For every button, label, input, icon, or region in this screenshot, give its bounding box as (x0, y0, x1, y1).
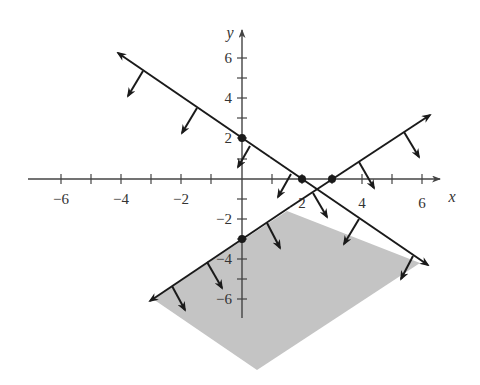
y-tick-label: 6 (225, 50, 233, 66)
y-tick-label: −4 (216, 251, 232, 267)
x-tick-label: 4 (358, 195, 366, 211)
intercept-point-3-0 (328, 175, 336, 183)
intercept-point-0-2 (238, 134, 246, 142)
shaded-region (153, 211, 420, 370)
x-tick-label: −6 (53, 191, 69, 207)
intercept-point-2-0 (298, 175, 306, 183)
inequality-graph: −6 −4 −2 2 4 6 x 6 4 2 −2 −4 −6 y (0, 0, 480, 385)
intercept-point-0-neg3 (238, 235, 246, 243)
y-tick-label: 4 (225, 90, 233, 106)
x-tick-label: 6 (418, 195, 426, 211)
y-tick-label: −6 (216, 291, 232, 307)
x-axis-label: x (447, 188, 455, 205)
y-tick-label: −2 (216, 211, 232, 227)
x-tick-label: −4 (113, 191, 129, 207)
y-tick-label: 2 (225, 130, 233, 146)
x-tick-label: −2 (173, 191, 189, 207)
y-axis-label: y (224, 24, 234, 42)
